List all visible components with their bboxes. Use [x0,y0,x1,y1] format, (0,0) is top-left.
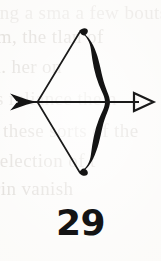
scanned-page: ing a sma a few bouts rm, the tlan of m.… [0,0,161,261]
figure-number: 29 [0,203,161,243]
arrow-fletching-icon [10,94,34,111]
bow-and-arrow-illustration [0,0,161,200]
